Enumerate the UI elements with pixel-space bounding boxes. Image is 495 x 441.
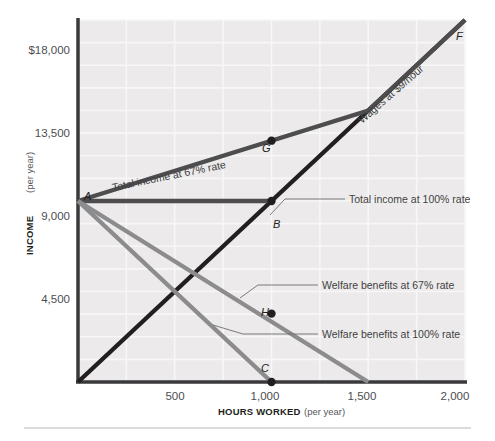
y-axis-title-main: INCOME [24,216,35,255]
x-tick-label-2000: 2,000 [441,390,470,402]
x-tick-label-1000: 1,000 [251,390,280,402]
x-axis-title: HOURS WORKED (per year) [218,406,345,417]
income-hours-chart: A B C F G H Total income at 67% rate Wag… [0,0,495,441]
point-label-G: G [262,142,271,154]
point-label-C: C [261,362,269,374]
y-tick-label-9000: 9,000 [41,210,70,222]
svg-text:Total income at 100% rate: Total income at 100% rate [349,193,471,205]
y-axis-title-sub: (per year) [24,152,35,193]
y-tick-label-13500: 13,500 [35,127,70,139]
point-label-H: H [261,306,269,318]
svg-text:Welfare benefits at 67% rate: Welfare benefits at 67% rate [322,279,454,291]
point-label-B: B [273,218,280,230]
y-tick-label-4500: 4,500 [41,293,70,305]
y-tick-label-18000: $18,000 [28,44,70,56]
data-point-B [267,197,275,205]
x-tick-label-500: 500 [165,390,184,402]
figure-container: A B C F G H Total income at 67% rate Wag… [0,0,495,441]
x-axis-title-main: HOURS WORKED [218,406,301,417]
point-label-A: A [83,190,91,202]
x-axis-title-sub: (per year) [304,406,345,417]
x-tick-label-1500: 1,500 [348,390,377,402]
y-axis-title: INCOME (per year) [24,152,35,255]
data-point-C [267,378,275,386]
svg-text:Welfare benefits at 100% rate: Welfare benefits at 100% rate [322,328,460,340]
